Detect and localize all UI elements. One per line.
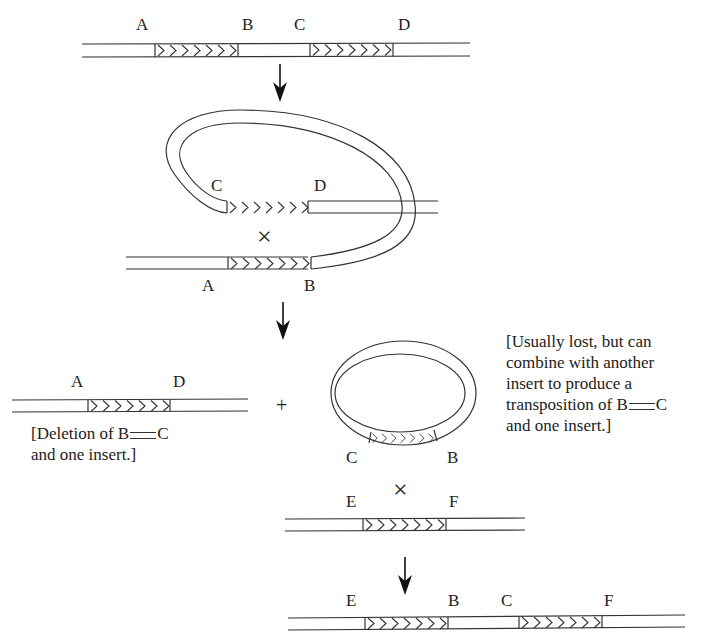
step1-dna: A B C D [82, 15, 470, 57]
deletion-note: [Deletion of BC and one insert.] [31, 423, 169, 465]
crossover-icon: × [393, 475, 408, 504]
plus-sign: + [276, 394, 287, 416]
arrow-down-icon [398, 557, 412, 595]
label-D: D [314, 176, 326, 195]
step2-loop: × C D A B [126, 110, 438, 295]
insert-2 [310, 44, 393, 57]
bc-segment-icon [629, 403, 655, 410]
note-text: and one insert.] [31, 444, 169, 465]
label-C: C [211, 176, 222, 195]
label-C: C [294, 15, 305, 34]
arrow-down-icon [273, 64, 287, 102]
transposition-product-dna: E B C F [288, 591, 685, 630]
label-B: B [304, 276, 315, 295]
label-A: A [202, 276, 215, 295]
label-B: B [242, 15, 253, 34]
label-B: B [447, 448, 458, 467]
label-B: B [448, 591, 459, 610]
label-A: A [136, 15, 149, 34]
arrow-down-icon [276, 302, 290, 340]
label-E: E [346, 591, 356, 610]
note-text: C [656, 395, 667, 414]
label-C: C [501, 591, 512, 610]
label-F: F [604, 591, 613, 610]
note-text: C [157, 424, 168, 443]
note-text: insert to produce a [506, 373, 667, 394]
label-F: F [449, 492, 458, 511]
label-D: D [398, 15, 410, 34]
circular-product: C B [331, 341, 476, 467]
note-text: [Usually lost, but can [506, 331, 667, 352]
insert-1 [155, 44, 238, 57]
label-A: A [71, 372, 84, 391]
deletion-product-dna: A D [12, 372, 248, 412]
label-D: D [173, 372, 185, 391]
note-text: [Deletion of B [31, 424, 129, 443]
note-text: and one insert.] [506, 415, 667, 436]
bc-segment-icon [130, 432, 156, 439]
diagram-canvas: A B C D × C D A B [0, 0, 707, 638]
circle-note: [Usually lost, but can combine with anot… [506, 331, 667, 436]
label-E: E [346, 492, 356, 511]
note-text: transposition of B [506, 395, 628, 414]
crossover-icon: × [257, 222, 272, 251]
note-text: combine with another [506, 352, 667, 373]
label-C: C [346, 448, 357, 467]
